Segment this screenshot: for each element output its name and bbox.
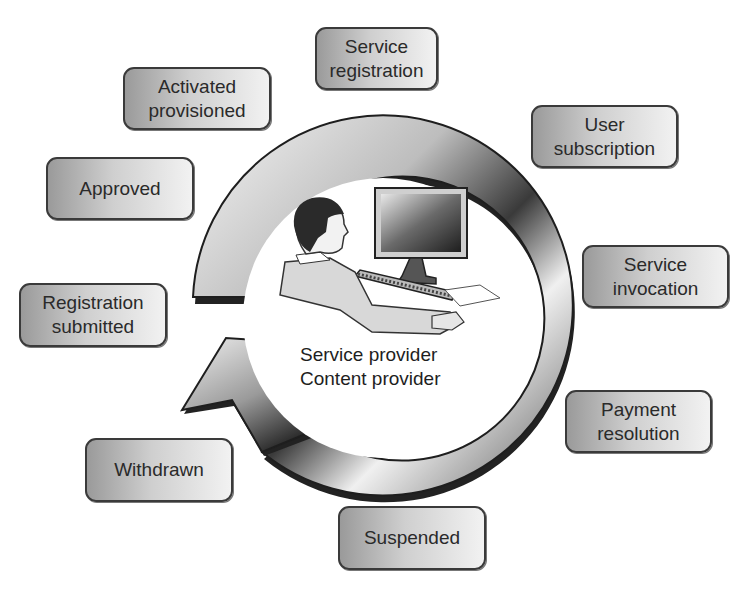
stage-label: Service invocation bbox=[613, 253, 699, 301]
stage-label: Withdrawn bbox=[114, 458, 204, 482]
stage-box-payment-resolution: Payment resolution bbox=[565, 390, 712, 453]
stage-box-activated-provisioned: Activated provisioned bbox=[123, 67, 271, 130]
lifecycle-diagram: Service provider Content provider Servic… bbox=[0, 0, 744, 590]
stage-label: Activated provisioned bbox=[148, 75, 245, 123]
stage-box-user-subscription: User subscription bbox=[531, 105, 678, 168]
stage-box-service-registration: Service registration bbox=[315, 27, 438, 90]
stage-box-suspended: Suspended bbox=[338, 506, 486, 570]
stage-label: Suspended bbox=[364, 526, 460, 550]
center-label: Service provider Content provider bbox=[300, 343, 480, 391]
stage-label: Service registration bbox=[330, 35, 424, 83]
stage-box-approved: Approved bbox=[46, 157, 194, 220]
stage-box-service-invocation: Service invocation bbox=[582, 245, 729, 308]
stage-label: Registration submitted bbox=[42, 291, 143, 339]
stage-label: Payment resolution bbox=[597, 398, 679, 446]
stage-label: Approved bbox=[79, 177, 160, 201]
stage-box-withdrawn: Withdrawn bbox=[85, 438, 233, 502]
stage-box-registration-submitted: Registration submitted bbox=[19, 283, 167, 347]
stage-label: User subscription bbox=[554, 113, 655, 161]
